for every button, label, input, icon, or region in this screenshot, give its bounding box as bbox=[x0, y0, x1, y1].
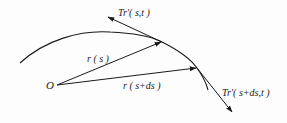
vector-r-s-label: r ( s ) bbox=[87, 53, 109, 64]
vector-r-s-ds-label: r ( s+ds ) bbox=[123, 80, 161, 91]
tangent-s bbox=[108, 17, 162, 42]
diagram-canvas: O r ( s ) r ( s+ds ) Tr′( s,t ) Tr′( s+d… bbox=[0, 0, 287, 123]
origin-label: O bbox=[46, 79, 54, 91]
tangent-s-label: Tr′( s,t ) bbox=[118, 7, 150, 18]
diagram-graphics bbox=[0, 0, 287, 123]
tangent-s-ds-label: Tr′( s+ds,t ) bbox=[222, 87, 270, 98]
